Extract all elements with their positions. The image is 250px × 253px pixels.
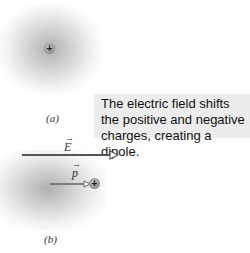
dipole-moment-arrow <box>48 179 92 189</box>
positive-charge-b: + <box>89 178 100 189</box>
plus-icon: + <box>92 179 98 189</box>
explanation-callout: The electric field shifts the positive a… <box>94 94 250 138</box>
callout-line-1: The electric field shifts <box>101 96 250 112</box>
callout-line-3: charges, creating a dipole. <box>101 128 250 160</box>
positive-charge-a: + <box>44 43 55 54</box>
plus-icon: + <box>47 44 53 54</box>
electron-cloud-b <box>0 150 106 230</box>
vector-arrow-icon: → <box>72 159 81 169</box>
vector-arrow-icon: → <box>65 133 74 143</box>
panel-a-label: (a) <box>46 112 59 124</box>
callout-line-2: the positive and negative <box>101 112 250 128</box>
panel-b-label: (b) <box>44 233 57 245</box>
electric-field-arrow <box>20 150 120 160</box>
